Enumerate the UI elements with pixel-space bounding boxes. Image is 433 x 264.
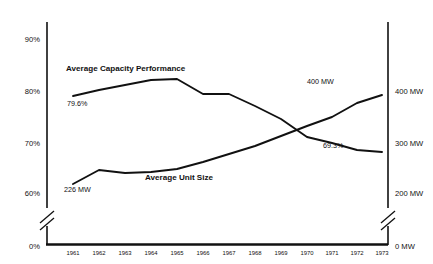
x-tick-label-1965: 1965 [170, 250, 184, 256]
x-axis: 1961 1962 1963 1964 1965 1966 1967 1968 … [46, 245, 389, 257]
series-label-unit-size: Average Unit Size [145, 173, 214, 182]
x-tick-label-1971: 1971 [325, 250, 338, 256]
x-tick-label-1973: 1973 [375, 250, 389, 256]
chart-container: 90% 80% 70% 60% 0% 1961 1962 1963 1964 1… [0, 0, 433, 264]
x-tick-label-1970: 1970 [300, 250, 314, 256]
series-label-capacity-performance: Average Capacity Performance [66, 64, 186, 73]
x-tick-label-1968: 1968 [248, 250, 262, 256]
right-tick-label-0: 0 MW [395, 242, 416, 251]
left-axis: 90% 80% 70% 60% 0% [25, 22, 54, 251]
x-tick-label-1969: 1969 [274, 250, 287, 256]
x-tick-label-1961: 1961 [66, 250, 79, 256]
value-label-unitsize-start: 226 MW [64, 185, 91, 194]
x-tick-label-1972: 1972 [350, 250, 363, 256]
right-tick-label-400: 400 MW [395, 87, 424, 96]
x-tick-label-1966: 1966 [196, 250, 210, 256]
right-tick-label-300: 300 MW [395, 139, 424, 148]
value-label-capacity-start: 79.6% [67, 99, 88, 108]
x-tick-label-1962: 1962 [92, 250, 105, 256]
x-tick-label-1967: 1967 [222, 250, 235, 256]
value-label-capacity-end: 69.3% [323, 141, 344, 150]
series-line-unit-size [73, 95, 382, 184]
left-tick-label-80: 80% [25, 87, 40, 96]
right-tick-label-200: 200 MW [395, 189, 424, 198]
line-chart: 90% 80% 70% 60% 0% 1961 1962 1963 1964 1… [0, 0, 433, 264]
value-label-unitsize-end: 400 MW [307, 77, 334, 86]
x-tick-label-1964: 1964 [144, 250, 158, 256]
left-tick-label-60: 60% [25, 189, 40, 198]
right-axis: 400 MW 300 MW 200 MW 0 MW [381, 22, 424, 251]
left-tick-label-70: 70% [25, 139, 40, 148]
left-tick-label-0: 0% [29, 242, 40, 251]
x-tick-label-1963: 1963 [118, 250, 132, 256]
left-tick-label-90: 90% [25, 35, 40, 44]
